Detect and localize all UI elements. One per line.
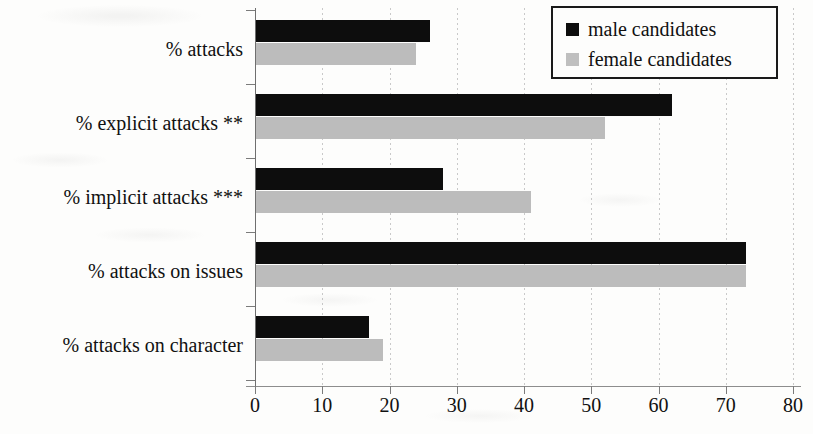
chart-legend: male candidates female candidates <box>551 6 778 79</box>
legend-label-male: male candidates <box>588 19 716 39</box>
legend-item-male: male candidates <box>566 14 776 44</box>
x-axis-tick <box>255 386 256 394</box>
y-axis-tick <box>246 10 255 11</box>
x-axis-tick-label: 10 <box>302 394 342 417</box>
x-axis-tick-label: 40 <box>504 394 544 417</box>
y-axis-tick <box>246 306 255 307</box>
x-axis-tick-label: 20 <box>370 394 410 417</box>
y-axis-tick <box>246 158 255 159</box>
category-label: % implicit attacks *** <box>0 186 243 208</box>
x-axis-tick-label: 0 <box>235 394 275 417</box>
legend-swatch-male-icon <box>566 23 579 36</box>
x-axis-tick-label: 30 <box>437 394 477 417</box>
bar-male <box>255 20 430 42</box>
x-axis-tick <box>726 386 727 394</box>
x-axis-tick <box>524 386 525 394</box>
x-axis-tick <box>793 386 794 394</box>
x-axis-tick-label: 80 <box>773 394 813 417</box>
gridline <box>793 8 794 386</box>
category-label: % attacks on character <box>0 334 243 356</box>
legend-label-female: female candidates <box>588 49 732 69</box>
category-label: % attacks <box>0 38 243 60</box>
bar-male <box>255 242 746 264</box>
x-axis-tick-label: 60 <box>639 394 679 417</box>
bar-female <box>255 339 383 361</box>
y-axis-tick <box>246 84 255 85</box>
legend-item-female: female candidates <box>566 44 776 74</box>
bar-female <box>255 117 605 139</box>
y-axis-line <box>255 8 256 386</box>
category-label: % attacks on issues <box>0 260 243 282</box>
bar-male <box>255 316 369 338</box>
x-axis-tick-label: 50 <box>571 394 611 417</box>
bar-female <box>255 265 746 287</box>
y-axis-tick <box>246 232 255 233</box>
x-axis-tick-label: 70 <box>706 394 746 417</box>
bar-female <box>255 191 531 213</box>
bar-female <box>255 43 416 65</box>
x-axis-tick <box>322 386 323 394</box>
y-axis-tick <box>246 380 255 381</box>
bar-chart: % attacks% explicit attacks **% implicit… <box>0 0 813 434</box>
x-axis-tick <box>457 386 458 394</box>
bar-male <box>255 94 672 116</box>
legend-swatch-female-icon <box>566 53 579 66</box>
x-axis-tick <box>390 386 391 394</box>
x-axis-tick <box>659 386 660 394</box>
bar-male <box>255 168 443 190</box>
x-axis-tick <box>591 386 592 394</box>
category-label: % explicit attacks ** <box>0 112 243 134</box>
